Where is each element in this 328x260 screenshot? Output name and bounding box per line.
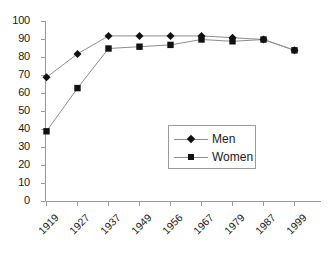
data-point-women-1987 [260, 36, 266, 42]
legend-label-men: Men [208, 132, 235, 146]
data-point-women-1956 [167, 42, 173, 48]
legend-item-women: Women [174, 149, 253, 165]
legend-marker-square-icon [174, 151, 208, 163]
x-axis-ticks [47, 202, 295, 207]
data-point-men-1937 [105, 32, 113, 40]
line-chart: 100 90 80 70 60 50 40 30 20 10 0 [0, 0, 328, 260]
legend-item-men: Men [174, 131, 235, 147]
data-point-women-1967 [198, 36, 204, 42]
legend-marker-diamond-icon [174, 133, 208, 145]
chart-legend: Men Women [168, 125, 256, 169]
data-point-women-1919 [43, 128, 49, 134]
data-point-women-1927 [74, 85, 80, 91]
data-point-women-1999 [291, 47, 297, 53]
legend-label-women: Women [208, 150, 253, 164]
y-axis-ticks [41, 22, 46, 202]
data-point-men-1949 [136, 32, 144, 40]
data-point-men-1919 [43, 73, 51, 81]
series-line-women [47, 40, 295, 132]
data-point-women-1949 [136, 44, 142, 50]
data-point-women-1979 [229, 38, 235, 44]
series-layer [43, 32, 299, 135]
data-point-women-1937 [105, 45, 111, 51]
data-point-men-1927 [74, 50, 82, 58]
data-point-men-1956 [167, 32, 175, 40]
